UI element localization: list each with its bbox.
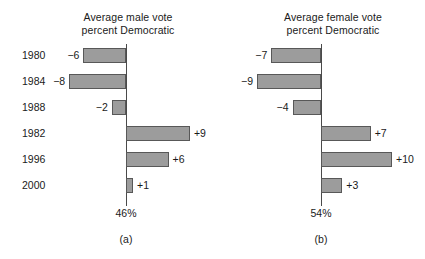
year-label: 1982 xyxy=(22,127,64,140)
panel-a-plot-area: 1980−61984−81988−21982+91996+62000+1 xyxy=(0,44,213,204)
bar xyxy=(126,152,169,167)
figure-root: Average male vote percent Democratic 198… xyxy=(0,0,425,259)
bar-row: −4 xyxy=(213,98,425,124)
chart-panel-a: Average male vote percent Democratic 198… xyxy=(0,0,213,259)
chart-panel-b: Average female vote percent Democratic −… xyxy=(213,0,425,259)
bar-value-label: −7 xyxy=(229,49,267,62)
bar-row: +10 xyxy=(213,150,425,176)
bar-row: −9 xyxy=(213,72,425,98)
bar xyxy=(69,74,126,89)
bar xyxy=(126,126,190,141)
bar-row: +3 xyxy=(213,176,425,202)
bar-row: 1988−2 xyxy=(0,98,213,124)
bar xyxy=(112,100,126,115)
bar-row: 1984−8 xyxy=(0,72,213,98)
panel-b-caption: (b) xyxy=(301,233,341,246)
bar-value-label: −4 xyxy=(251,101,289,114)
year-label: 2000 xyxy=(22,179,64,192)
bar-value-label: −2 xyxy=(70,101,108,114)
bar xyxy=(126,178,133,193)
bar-value-label: +1 xyxy=(137,179,149,192)
bar-value-label: +3 xyxy=(346,179,358,192)
bar-row: 1996+6 xyxy=(0,150,213,176)
bar xyxy=(257,74,321,89)
bar-row: 1982+9 xyxy=(0,124,213,150)
bar xyxy=(83,48,126,63)
panel-a-baseline-label: 46% xyxy=(106,207,146,220)
bar-row: 1980−6 xyxy=(0,46,213,72)
year-label: 1996 xyxy=(22,153,64,166)
bar-row: −7 xyxy=(213,46,425,72)
year-label: 1988 xyxy=(22,101,64,114)
bar-value-label: +9 xyxy=(194,127,206,140)
panel-a-title: Average male vote percent Democratic xyxy=(48,11,208,37)
panel-a-title-line1: Average male vote xyxy=(48,11,208,24)
bar-value-label: −6 xyxy=(41,49,79,62)
bar xyxy=(271,48,321,63)
bar xyxy=(321,152,392,167)
panel-b-plot-area: −7−9−4+7+10+3 xyxy=(213,44,425,204)
bar-value-label: −9 xyxy=(215,75,253,88)
panel-a-title-line2: percent Democratic xyxy=(48,24,208,37)
panel-b-baseline-label: 54% xyxy=(301,207,341,220)
panel-b-title-line2: percent Democratic xyxy=(247,24,419,37)
bar-value-label: +6 xyxy=(173,153,185,166)
panel-b-title-line1: Average female vote xyxy=(247,11,419,24)
bar-value-label: +7 xyxy=(375,127,387,140)
panel-b-title: Average female vote percent Democratic xyxy=(247,11,419,37)
bar xyxy=(321,178,342,193)
panel-a-caption: (a) xyxy=(106,233,146,246)
bar-value-label: −8 xyxy=(27,75,65,88)
bar-row: 2000+1 xyxy=(0,176,213,202)
bar-value-label: +10 xyxy=(396,153,414,166)
bar-row: +7 xyxy=(213,124,425,150)
bar xyxy=(321,126,371,141)
bar xyxy=(293,100,321,115)
